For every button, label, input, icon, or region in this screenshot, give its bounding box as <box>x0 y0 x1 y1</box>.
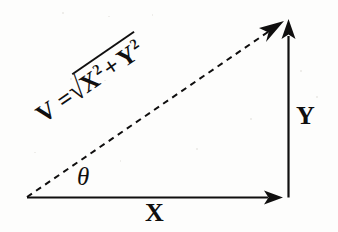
resultant-vector-arrowhead <box>259 21 284 42</box>
angle-theta-label: θ <box>77 164 89 189</box>
y-component-label: Y <box>296 103 315 129</box>
x-component-label: X <box>145 200 164 226</box>
figure-canvas: V =√X2+Y2 X Y θ <box>0 0 338 232</box>
